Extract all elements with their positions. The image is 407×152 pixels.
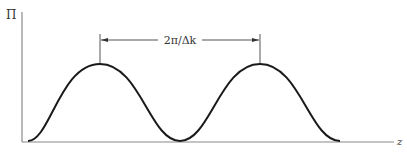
arrow-left-icon [101,38,108,42]
x-axis-label: z [396,136,403,147]
y-axis-label: Π [6,8,16,22]
period-label: 2π/Δk [164,34,197,47]
arrow-right-icon [252,38,259,42]
periodic-function-diagram: Π z 2π/Δk [0,0,407,152]
sinusoid-curve [28,64,340,141]
